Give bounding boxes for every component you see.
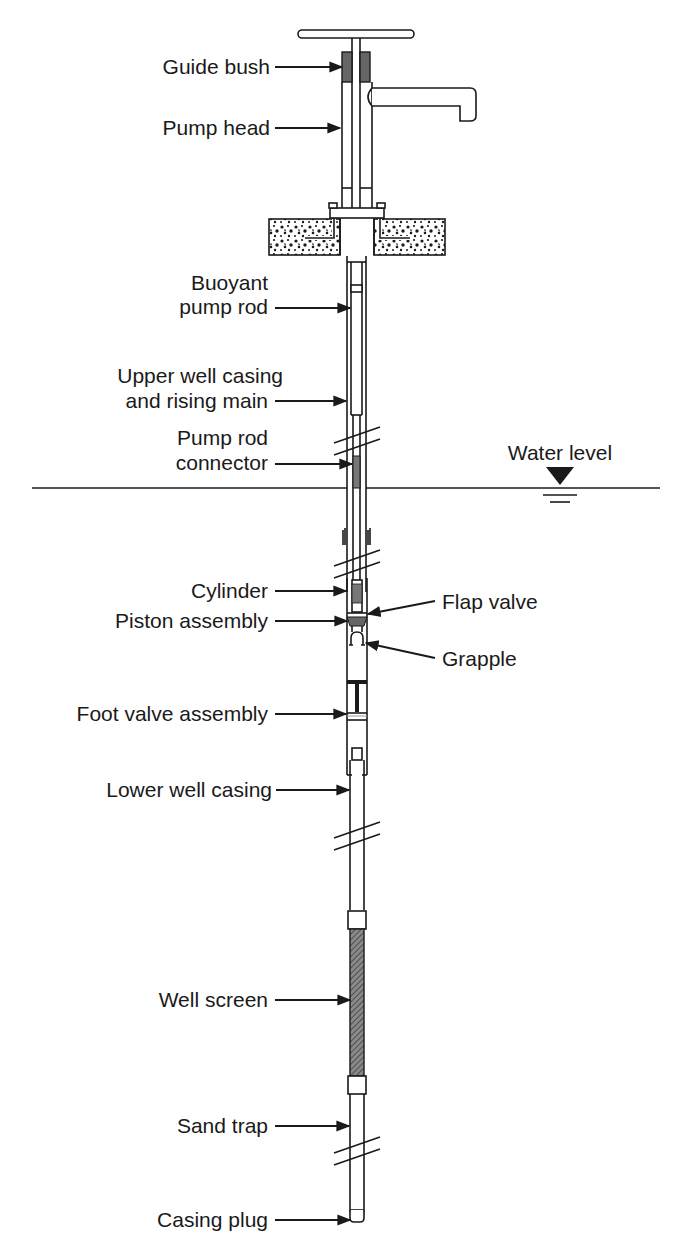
concrete-base	[269, 219, 445, 255]
label-well-screen: Well screen	[159, 988, 268, 1011]
sand-trap-shape	[350, 1094, 364, 1212]
screen-coupling-bottom	[348, 1076, 366, 1094]
well-pump-diagram: Water level	[0, 0, 686, 1254]
label-lower-well-casing: Lower well casing	[106, 778, 272, 801]
label-pump-rod-connector-2: connector	[176, 451, 268, 474]
piston-assembly-shape	[347, 617, 367, 626]
buoyant-pump-rod	[351, 262, 362, 590]
arrow-grapple	[366, 643, 435, 658]
pump-rod-connector-shape	[353, 456, 360, 488]
spout	[368, 88, 476, 121]
guide-bush-shape	[342, 52, 370, 82]
break-mark-2	[334, 550, 380, 578]
water-level-label: Water level	[508, 441, 612, 464]
label-casing-plug: Casing plug	[157, 1208, 268, 1231]
label-guide-bush: Guide bush	[163, 55, 270, 78]
label-sand-trap: Sand trap	[177, 1114, 268, 1137]
label-grapple: Grapple	[442, 647, 517, 670]
well-screen-shape	[350, 929, 364, 1076]
mounting-flange	[329, 203, 385, 218]
label-pump-rod-connector-1: Pump rod	[177, 426, 268, 449]
break-mark-4	[334, 1137, 380, 1165]
label-pump-head: Pump head	[163, 116, 270, 139]
label-piston-assembly: Piston assembly	[115, 609, 268, 632]
arrow-flap-valve	[368, 601, 435, 614]
pump-handle	[298, 30, 414, 38]
water-level-icon	[543, 467, 577, 502]
pump-rod-top	[352, 38, 360, 210]
label-buoyant-pump-rod-2: pump rod	[179, 295, 268, 318]
label-foot-valve-assembly: Foot valve assembly	[77, 702, 269, 725]
label-cylinder: Cylinder	[191, 579, 268, 602]
label-upper-casing-2: and rising main	[126, 389, 268, 412]
label-buoyant-pump-rod-1: Buoyant	[191, 271, 268, 294]
upper-well-casing	[347, 256, 366, 592]
casing-plug-shape	[350, 1210, 364, 1222]
cylinder-shape	[347, 578, 367, 775]
screen-coupling-top	[348, 911, 366, 929]
label-upper-casing-1: Upper well casing	[117, 364, 283, 387]
foot-valve-assembly-shape	[347, 680, 367, 720]
break-mark-3	[334, 822, 380, 850]
label-flap-valve: Flap valve	[442, 590, 538, 613]
lower-well-casing	[350, 760, 364, 910]
break-mark-1	[334, 427, 380, 455]
grapple-shape	[349, 626, 365, 645]
pump-head-body	[342, 82, 372, 212]
